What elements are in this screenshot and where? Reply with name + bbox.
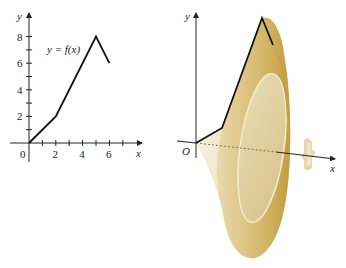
figure-canvas: 2 4 6 0 2 4 6 8 y x y = f(x) y [0,0,346,268]
solid-of-revolution: y x O [177,10,335,258]
x-axis-label: x [135,147,141,159]
y-tick-label-6: 6 [17,57,23,69]
rotation-arrow-icon [302,139,315,171]
left-graph: 2 4 6 0 2 4 6 8 y x y = f(x) [10,10,142,162]
function-label: y = f(x) [46,43,80,56]
y-tick-label-2: 2 [17,110,23,122]
x-tick-label-2: 2 [53,148,59,160]
x-tick-label-6: 6 [106,148,112,160]
origin-label: 0 [20,148,26,160]
x-tick-label-4: 4 [79,148,85,160]
right-x-axis-left [177,141,196,143]
y-axis-label: y [16,10,22,22]
y-tick-label-4: 4 [17,84,23,96]
y-tick-label-8: 8 [17,31,23,43]
right-y-axis-label: y [184,10,190,22]
right-origin-label: O [182,145,190,157]
right-x-axis-label: x [329,162,335,174]
